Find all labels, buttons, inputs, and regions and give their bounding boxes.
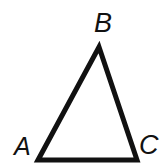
triangle-abc-outline [38,47,137,160]
vertex-label-b: B [94,10,112,37]
vertex-label-a: A [14,134,31,159]
vertex-label-c: C [139,132,159,159]
geometry-figure-canvas: A B C [0,0,164,167]
